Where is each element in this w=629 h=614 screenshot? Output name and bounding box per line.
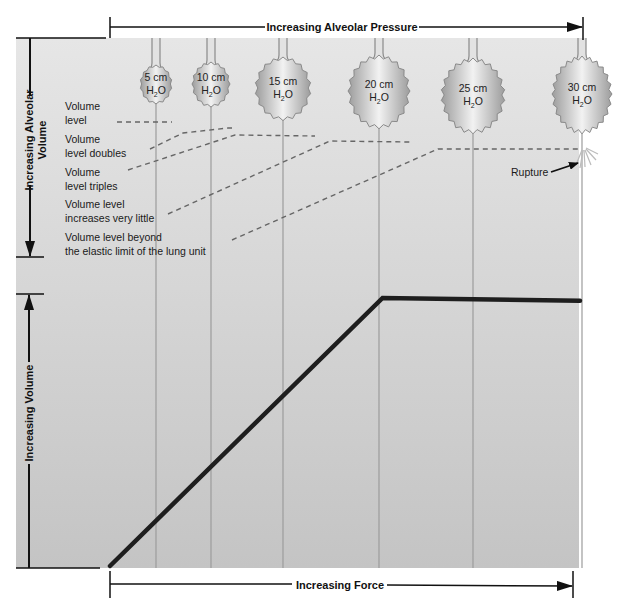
rupture-label: Rupture	[511, 166, 549, 178]
alveolus-body	[552, 56, 612, 134]
alveolus-body	[192, 62, 230, 107]
annotation-doubles-1: Volume	[65, 133, 100, 145]
alveolus-pressure-label: 10 cm	[197, 71, 226, 83]
bottom-axis-label: Increasing Force	[296, 579, 384, 591]
annotation-triples-2: level triples	[65, 180, 118, 192]
annotation-triples-1: Volume	[65, 166, 100, 178]
alveolus-pressure-label: 20 cm	[365, 78, 394, 90]
alveolus-pressure-label: 5 cm	[145, 71, 168, 83]
left-upper-axis-label-1: Increasing Alveolar	[23, 89, 35, 191]
annotation-elastic-1: Volume level beyond	[65, 231, 162, 243]
left-lower-axis-label: Increasing Volume	[23, 365, 35, 462]
top-axis-label: Increasing Alveolar Pressure	[266, 21, 417, 33]
alveolus-pressure-label: 25 cm	[459, 82, 488, 94]
annotation-volume-level-1: Volume	[65, 100, 100, 112]
alveolus-pressure-label: 30 cm	[568, 81, 597, 93]
alveolar-pressure-volume-diagram: 5 cmH2O10 cmH2O15 cmH2O20 cmH2O25 cmH2O3…	[0, 0, 629, 614]
annotation-volume-level-2: level	[65, 114, 87, 126]
left-upper-axis-label-2: Volume	[36, 121, 48, 160]
bottom-axis: Increasing Force	[110, 571, 573, 598]
top-axis: Increasing Alveolar Pressure	[110, 17, 583, 40]
annotation-elastic-2: the elastic limit of the lung unit	[65, 245, 206, 257]
annotation-very-little-2: increases very little	[65, 212, 154, 224]
alveolus-pressure-label: 15 cm	[269, 75, 298, 87]
annotation-very-little-1: Volume level	[65, 198, 125, 210]
annotation-doubles-2: level doubles	[65, 147, 126, 159]
